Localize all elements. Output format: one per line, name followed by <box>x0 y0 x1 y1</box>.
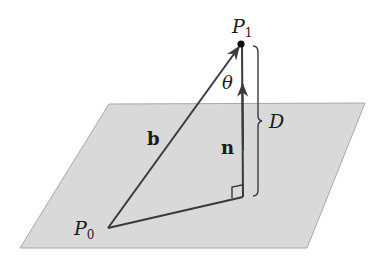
label-p1: P1 <box>231 15 252 40</box>
label-theta: θ <box>222 72 233 93</box>
label-d: D <box>268 110 284 132</box>
point-p1 <box>237 40 244 47</box>
label-n: n <box>221 137 234 158</box>
label-b: b <box>147 128 160 149</box>
distance-diagram: P1 P0 b n θ D <box>0 0 390 256</box>
vector-n <box>243 84 244 150</box>
plane <box>20 103 365 248</box>
